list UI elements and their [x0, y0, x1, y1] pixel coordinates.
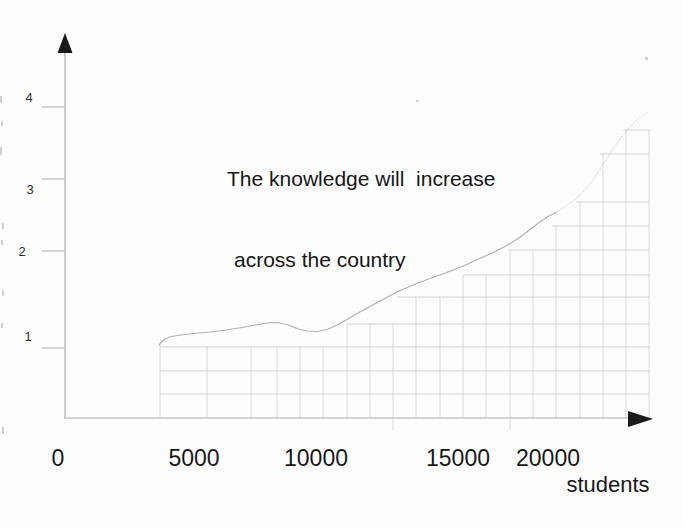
x-tick-label-0: 0 [52, 445, 65, 472]
scan-speck [0, 147, 2, 155]
x-axis-title: students [566, 472, 649, 498]
x-tick-label-10000: 10000 [284, 445, 348, 472]
scan-speck [416, 100, 419, 102]
scan-speck [1, 121, 3, 126]
x-tick-label-15000: 15000 [426, 445, 490, 472]
y-tick-label-3: 3 [26, 182, 33, 197]
chart-title-line1: The knowledge will increase [227, 165, 495, 192]
scan-speck [2, 223, 4, 229]
scan-speck [645, 57, 648, 60]
scan-speck [1, 323, 3, 328]
y-tick-label-1: 1 [24, 329, 31, 344]
y-axis-arrowhead-icon [58, 33, 73, 53]
y-tick-label-4: 4 [25, 90, 32, 105]
y-tick-label-2: 2 [18, 244, 25, 259]
x-tick-label-5000: 5000 [168, 445, 219, 472]
scan-speck [2, 290, 4, 296]
scan-speck [1, 240, 3, 245]
chart-title: The knowledge will increase across the c… [227, 111, 495, 327]
scan-speck [0, 96, 2, 103]
chart-canvas: The knowledge will increase across the c… [0, 0, 683, 527]
x-tick-label-20000: 20000 [516, 445, 580, 472]
scan-speck [2, 427, 4, 434]
chart-title-line2: across the country [227, 246, 495, 273]
